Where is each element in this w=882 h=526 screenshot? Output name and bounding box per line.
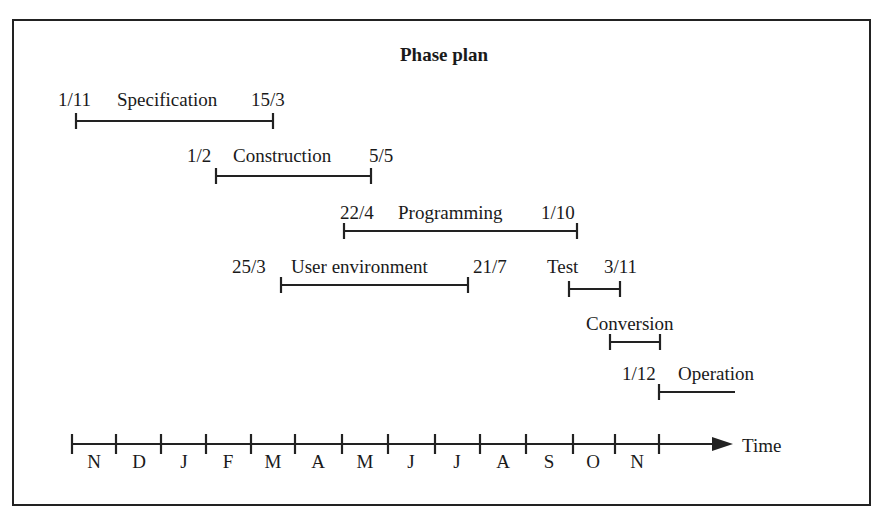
month-label: D [124,452,154,471]
time-axis-label: Time [742,435,781,457]
month-label: N [622,452,652,471]
conversion-bar [610,334,660,350]
month-label: M [258,452,288,471]
time-axis [72,434,718,454]
month-label: J [396,452,426,471]
month-label: A [488,452,518,471]
user-environment-bar [281,277,468,293]
month-label: O [578,452,608,471]
test-bar [569,281,620,297]
programming-bar [344,223,577,239]
month-label: A [303,452,333,471]
month-label: F [213,452,243,471]
month-label: J [442,452,472,471]
arrowhead-icon [712,437,733,451]
operation-bar [659,384,735,400]
month-label: M [350,452,380,471]
month-label: N [79,452,109,471]
specification-bar [76,113,273,129]
month-label: S [534,452,564,471]
construction-bar [216,168,371,184]
month-label: J [169,452,199,471]
